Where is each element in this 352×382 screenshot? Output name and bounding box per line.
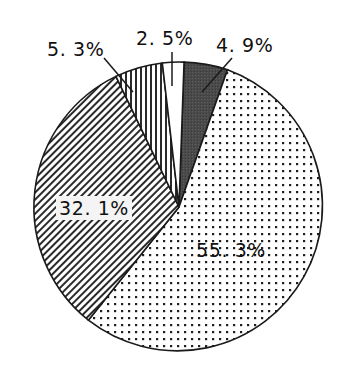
pie-label-32-1: 32. 1%	[56, 196, 132, 220]
pie-label-5-3: 5. 3%	[47, 38, 104, 60]
pie-chart: 5. 3% 2. 5% 4. 9% 32. 1% 55. 3%	[0, 0, 352, 382]
pie-label-4-9: 4. 9%	[216, 34, 273, 56]
pie-label-2-5: 2. 5%	[136, 27, 193, 49]
pie-label-55-3: 55. 3%	[196, 239, 266, 261]
